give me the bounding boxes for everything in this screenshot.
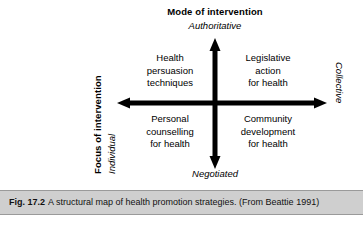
vertical-axis-bottom-pole-label: Negotiated xyxy=(120,168,310,179)
figure-caption-text: Fig. 17.2A structural map of health prom… xyxy=(9,191,357,214)
arrowhead-up-icon xyxy=(210,38,221,51)
quadrant-line-3: techniques xyxy=(127,77,213,90)
figure-caption-body: A structural map of health promotion str… xyxy=(48,197,319,207)
quadrant-line-1: Personal xyxy=(127,113,213,126)
quadrant-line-1: Legislative xyxy=(225,52,311,65)
horizontal-axis-heading: Focus of intervention Individual xyxy=(78,34,108,174)
figure-caption-bar: Fig. 17.2A structural map of health prom… xyxy=(0,190,363,215)
quadrant-line-2: action xyxy=(225,65,311,78)
arrowhead-right-icon xyxy=(314,98,327,109)
quadrant-line-3: for health xyxy=(225,138,311,151)
arrowhead-left-icon xyxy=(117,98,130,109)
horizontal-axis-left-pole-label: Individual xyxy=(106,134,117,174)
quadrant-line-2: counselling xyxy=(127,126,213,139)
quadrant-line-2: persuasion xyxy=(127,65,213,78)
vertical-axis-heading: Mode of intervention Authoritative xyxy=(120,5,310,32)
quadrant-line-1: Health xyxy=(127,52,213,65)
horizontal-axis-right-pole-label: Collective xyxy=(334,62,345,103)
quadrant-label-bottom-left: Personal counselling for health xyxy=(127,113,213,151)
figure-container: Mode of intervention Authoritative Focus… xyxy=(0,0,363,225)
quadrant-label-top-right: Legislative action for health xyxy=(225,52,311,90)
vertical-axis-title: Mode of intervention xyxy=(120,5,310,18)
horizontal-axis-arrow xyxy=(117,98,327,109)
quadrant-label-top-left: Health persuasion techniques xyxy=(127,52,213,90)
horizontal-axis-title: Focus of intervention xyxy=(92,75,103,174)
vertical-axis-top-pole-label: Authoritative xyxy=(120,19,310,32)
quadrant-line-2: development xyxy=(225,126,311,139)
quadrant-line-1: Community xyxy=(225,113,311,126)
quadrant-line-3: for health xyxy=(127,138,213,151)
quadrant-label-bottom-right: Community development for health xyxy=(225,113,311,151)
figure-number-label: Fig. 17.2 xyxy=(9,197,45,207)
quadrant-line-3: for health xyxy=(225,77,311,90)
quadrant-diagram: Mode of intervention Authoritative Focus… xyxy=(0,0,363,188)
